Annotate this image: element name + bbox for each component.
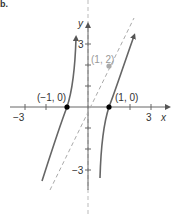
- y-tick-3: 3: [78, 40, 84, 50]
- x-tick-neg3: −3: [13, 113, 24, 123]
- curve-left-branch: [42, 38, 76, 181]
- intercept-neg: [64, 104, 69, 109]
- graph: [0, 0, 176, 217]
- y-axis-label: y: [78, 19, 83, 29]
- label-asymptote-point: (1, 2): [91, 55, 114, 65]
- label-neg-intercept: (−1, 0): [37, 93, 66, 103]
- x-axis-label: x: [161, 113, 166, 123]
- part-label: b.: [0, 0, 8, 9]
- y-tick-neg3: −3: [72, 166, 83, 176]
- oblique-asymptote: [50, 18, 134, 190]
- intercept-pos: [106, 104, 111, 109]
- label-pos-intercept: (1, 0): [115, 93, 138, 103]
- x-tick-3: 3: [146, 113, 152, 123]
